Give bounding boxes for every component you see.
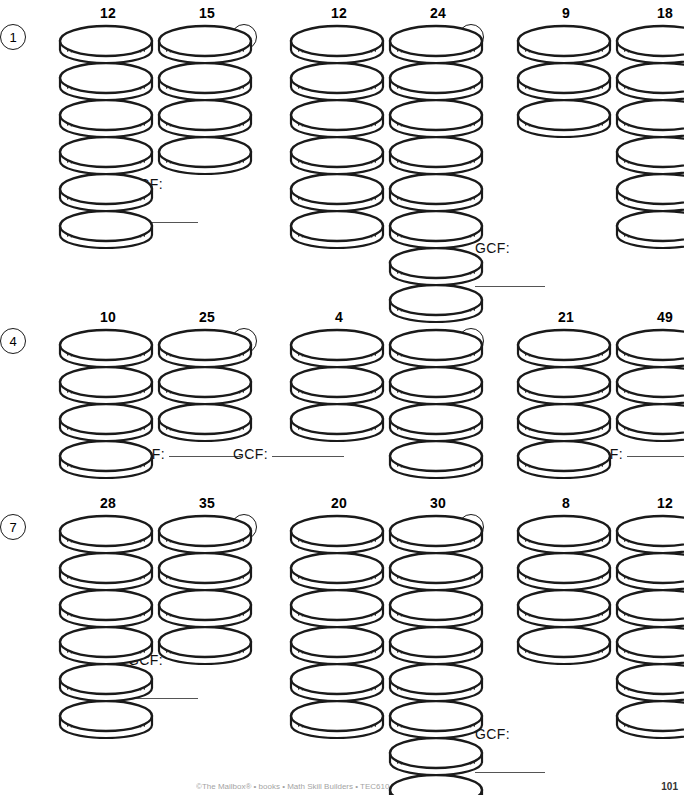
coin-group [386,514,490,795]
stack-number-label: 21 [514,308,618,326]
stack-number-label: 10 [56,308,160,326]
coin [613,209,684,249]
gcf-answer-blank[interactable] [627,456,684,457]
page-number: 101 [661,781,678,792]
coin [613,365,684,405]
coin [56,98,156,138]
coin [386,439,486,479]
coin-group [56,24,160,254]
coin-group [287,514,391,744]
coin [56,328,156,368]
coin [514,439,614,479]
stack-number-label: 28 [56,494,160,512]
coin-stack-right: 49 [613,308,684,447]
coin-stack-left: 12 [56,4,160,254]
coin [287,662,387,702]
coin [56,551,156,591]
coin [514,514,614,554]
coin [386,246,486,286]
stack-number-label: 4 [287,308,391,326]
coin [155,328,255,368]
coin [56,365,156,405]
coin-group [155,328,259,447]
stack-number-label: 8 [514,494,618,512]
coin-stack-left: 20 [287,494,391,744]
problem-number: 4 [0,328,26,354]
coin [386,283,486,323]
coin-stack-left: 9 [514,4,618,143]
coin-stack-left: 4 [287,308,391,447]
coin [613,402,684,442]
stack-number-label: 24 [386,4,490,22]
coin-group [613,328,684,447]
coin [155,98,255,138]
coin [613,172,684,212]
coin [386,699,486,739]
coin [386,135,486,175]
stack-number-label: 15 [155,4,259,22]
coin [56,439,156,479]
coin [386,209,486,249]
coin [287,365,387,405]
coin-stack-right: 30 [386,494,490,795]
coin-stack-left: 8 [514,494,618,670]
coin [287,98,387,138]
coin [155,514,255,554]
coin [386,736,486,776]
coin [56,135,156,175]
coin [386,662,486,702]
coin [287,402,387,442]
coin [386,98,486,138]
problem-number: 1 [0,24,26,50]
stack-number-label: 49 [613,308,684,326]
coin [514,98,614,138]
stack-number-label: 12 [56,4,160,22]
coin [287,61,387,101]
coin [613,135,684,175]
coin [287,699,387,739]
coin [613,662,684,702]
coin-group [56,514,160,744]
coin-group [155,24,259,180]
coin [613,514,684,554]
gcf-answer-blank[interactable] [272,456,344,457]
coin [514,328,614,368]
coin [287,24,387,64]
coin [56,699,156,739]
stack-number-label: 30 [386,494,490,512]
coin [155,61,255,101]
gcf-answer-blank[interactable] [169,456,241,457]
gcf-answer-area[interactable]: GCF: [233,446,344,462]
coin-group [514,514,618,670]
coin [386,551,486,591]
coin [287,172,387,212]
coin-group [287,328,391,447]
coin [386,365,486,405]
coin [287,328,387,368]
coin [155,551,255,591]
coin [56,662,156,702]
coin [386,402,486,442]
coin [287,551,387,591]
coin-stack-right: 25 [155,308,259,447]
coin [386,588,486,628]
coin [287,588,387,628]
coin [386,24,486,64]
coin [514,588,614,628]
coin [56,402,156,442]
coin-stack-left: 28 [56,494,160,744]
coin-group [386,24,490,328]
coin [155,135,255,175]
coin-stack-right: 24 [386,4,490,328]
coin [287,209,387,249]
coin-stack-left: 10 [56,308,160,484]
coin-stack-right: 14 [386,308,490,484]
problem-number: 7 [0,514,26,540]
coin-stack-right: 18 [613,4,684,254]
coin [386,773,486,795]
coin [613,551,684,591]
coin [386,172,486,212]
coin [386,328,486,368]
stack-number-label: 25 [155,308,259,326]
coin [613,61,684,101]
